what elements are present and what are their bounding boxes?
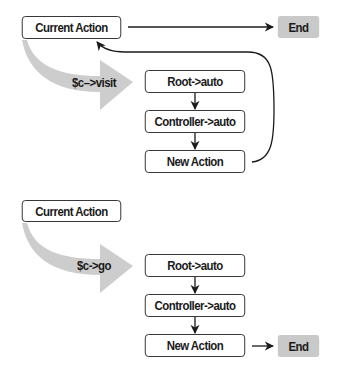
- current-action-node-2: Current Action: [22, 200, 121, 222]
- new-action-node-2: New Action: [145, 334, 245, 357]
- root-auto-node: Root->auto: [145, 70, 245, 93]
- current-action-node: Current Action: [22, 16, 121, 39]
- flow-diagram: Current Action End $c–>visit Root->auto …: [0, 0, 342, 375]
- root-auto-node-2: Root->auto: [145, 254, 245, 277]
- controller-auto-node: Controller->auto: [145, 110, 245, 133]
- end-node-2: End: [278, 335, 319, 357]
- controller-auto-node-2: Controller->auto: [145, 294, 245, 317]
- loop-back-arrow: [97, 42, 274, 162]
- end-node: End: [278, 16, 319, 38]
- new-action-node: New Action: [145, 150, 245, 173]
- visit-call-label: $c–>visit: [72, 75, 116, 90]
- go-call-label: $c->go: [77, 258, 111, 273]
- diagram-connectors: [0, 0, 342, 375]
